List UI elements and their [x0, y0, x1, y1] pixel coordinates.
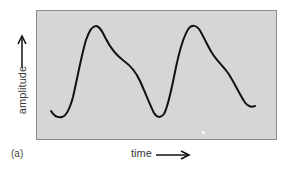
y-axis-label: amplitude	[16, 66, 28, 115]
right-arrow-icon	[156, 151, 189, 159]
up-arrow-icon	[18, 36, 26, 68]
x-axis-label: time	[131, 147, 152, 159]
panel-label: (a)	[11, 148, 23, 159]
waveform-figure: amplitude time (a)	[0, 0, 289, 171]
waveform-curve	[51, 26, 255, 117]
waveform-plot	[0, 0, 289, 171]
